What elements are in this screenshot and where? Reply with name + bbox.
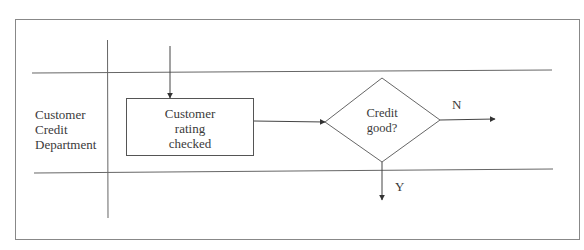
process-label-line: rating	[126, 121, 254, 136]
outer-frame	[16, 20, 580, 240]
decision-label-line: Credit	[342, 106, 422, 121]
lane-top-line	[32, 70, 552, 73]
swimlane-label-line: Credit	[35, 122, 96, 137]
swimlane-label: Customer Credit Department	[35, 107, 96, 152]
lane-bottom-line	[34, 169, 553, 173]
connector-arrow	[254, 121, 325, 122]
decision-label-line: good?	[342, 121, 422, 136]
process-label-line: Customer	[126, 106, 254, 121]
no-branch-arrow	[440, 119, 495, 120]
swimlane-label-line: Department	[35, 137, 96, 152]
swimlane-label-line: Customer	[35, 107, 96, 122]
yes-branch-label: Y	[395, 179, 404, 194]
process-box-label: Customer rating checked	[126, 106, 254, 151]
no-branch-label: N	[452, 97, 461, 112]
process-label-line: checked	[126, 136, 254, 151]
lane-divider-vertical	[108, 40, 109, 218]
decision-label: Credit good?	[342, 106, 422, 136]
